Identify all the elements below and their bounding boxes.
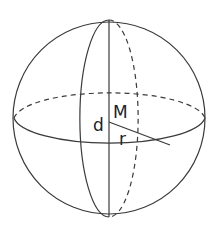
center-label: M (113, 102, 128, 122)
radius-label: r (119, 129, 126, 149)
sphere-diagram: M d r (0, 0, 217, 231)
diameter-label: d (93, 115, 104, 135)
